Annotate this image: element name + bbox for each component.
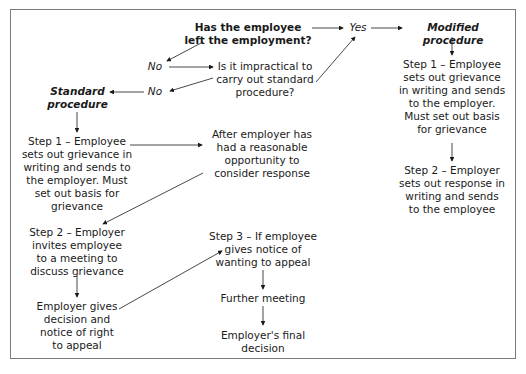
yes-label: Yes xyxy=(343,21,373,34)
question-left-employment: Has the employee left the employment? xyxy=(178,21,318,47)
further-meeting: Further meeting xyxy=(205,292,321,305)
question-impractical: Is it impractical to carry out standard … xyxy=(205,60,325,99)
standard-step-1: Step 1 – Employee sets out grievance in … xyxy=(12,135,142,213)
no-label-1: No xyxy=(140,60,170,73)
employer-final-decision: Employer's final decision xyxy=(205,329,321,355)
standard-step-3: Step 3 – If employee gives notice of wan… xyxy=(200,230,326,269)
modified-step-1: Step 1 – Employee sets out grievance in … xyxy=(390,58,514,136)
standard-step-2: Step 2 – Employer invites employee to a … xyxy=(14,226,140,278)
wait-for-employer: After employer has had a reasonable oppo… xyxy=(200,128,324,180)
employer-decision: Employer gives decision and notice of ri… xyxy=(20,300,134,352)
standard-procedure-title: Standard procedure xyxy=(40,85,115,111)
modified-procedure-title: Modified procedure xyxy=(398,21,508,47)
modified-step-2: Step 2 – Employer sets out response in w… xyxy=(388,164,516,216)
no-label-2: No xyxy=(140,85,170,98)
